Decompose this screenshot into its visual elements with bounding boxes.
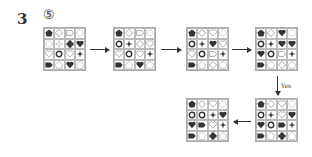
diamond-icon (136, 40, 144, 48)
heart-icon (45, 50, 53, 58)
pentagon-icon (198, 61, 206, 69)
cross-icon (55, 40, 63, 48)
grid-cell (208, 49, 218, 60)
grid-cell (114, 60, 124, 71)
pentagon-icon (267, 132, 275, 140)
heart-icon (278, 100, 286, 108)
grid-cell (266, 60, 276, 71)
grid-cell (287, 39, 297, 50)
heart-icon (278, 111, 286, 119)
grid-cell (256, 28, 266, 39)
grid-cell (197, 60, 207, 71)
grid-cell (277, 28, 287, 39)
grid-cell (65, 39, 75, 50)
ring-icon (257, 111, 265, 119)
flower-icon (288, 100, 296, 108)
grid-cell (187, 39, 197, 50)
tag-icon (257, 61, 265, 69)
question-number: 3 (17, 10, 27, 28)
grid-cell (266, 110, 276, 121)
ring-icon (257, 40, 265, 48)
pentagon-icon (198, 132, 206, 140)
grid-cell (75, 60, 85, 71)
heart-icon (278, 29, 286, 37)
flower-icon (76, 29, 84, 37)
heart-icon (209, 29, 217, 37)
grid-cell (266, 131, 276, 142)
tag-icon (278, 50, 286, 58)
pentagon-icon (219, 132, 227, 140)
grid-cell (277, 120, 287, 131)
grid-cell (197, 110, 207, 121)
grid-cell (287, 60, 297, 71)
grid-cell (218, 60, 228, 71)
diamond-icon (198, 29, 206, 37)
grid-cell (197, 99, 207, 110)
grid-3 (186, 27, 229, 71)
grid-cell (208, 28, 218, 39)
heart-icon (136, 50, 144, 58)
grid-cell (75, 49, 85, 60)
grid-cell (277, 60, 287, 71)
grid-cell (218, 110, 228, 121)
flower-icon (146, 29, 154, 37)
ring-icon (198, 111, 206, 119)
grid-cell (145, 49, 155, 60)
grid-cell (266, 99, 276, 110)
cross-icon (267, 40, 275, 48)
arrow-left (234, 121, 251, 122)
grid-cell (54, 39, 64, 50)
flower-icon (288, 29, 296, 37)
ring-icon (198, 50, 206, 58)
heart-icon (288, 111, 296, 119)
grid-cell (44, 39, 54, 50)
grid-cell (218, 39, 228, 50)
grid-cell (114, 49, 124, 60)
diamond-icon (278, 61, 286, 69)
grid-cell (208, 60, 218, 71)
grid-cell (114, 39, 124, 50)
cross-icon (125, 40, 133, 48)
heart-icon (219, 40, 227, 48)
grid-cell (287, 120, 297, 131)
heart-icon (115, 50, 123, 58)
heart-icon (209, 121, 217, 129)
pentagon-icon (146, 61, 154, 69)
heart-icon (188, 50, 196, 58)
grid-cell (266, 120, 276, 131)
grid-cell (135, 39, 145, 50)
grid-cell (187, 99, 197, 110)
grid-cell (208, 131, 218, 142)
grid-cell (218, 131, 228, 142)
grid-cell (65, 49, 75, 60)
ring-icon (267, 121, 275, 129)
grid-cell (208, 39, 218, 50)
pentagon-icon (288, 132, 296, 140)
heart-icon (136, 61, 144, 69)
star4-icon (76, 50, 84, 58)
grid-cell (197, 49, 207, 60)
arrow-right-3 (232, 49, 251, 50)
pentagon-icon (45, 29, 53, 37)
pentagon-icon (115, 29, 123, 37)
diamond-icon (267, 29, 275, 37)
diamond-icon (198, 100, 206, 108)
heart-icon (146, 40, 154, 48)
yes-label: Yes (281, 82, 291, 89)
cross-icon (198, 40, 206, 48)
grid-cell (208, 110, 218, 121)
heart-icon (257, 50, 265, 58)
grid-cell (44, 60, 54, 71)
grid-cell (187, 131, 197, 142)
star4-icon (288, 121, 296, 129)
grid-4 (255, 27, 298, 71)
grid-cell (124, 28, 134, 39)
heart-icon (278, 40, 286, 48)
grid-cell (197, 39, 207, 50)
grid-cell (54, 28, 64, 39)
ring-icon (188, 40, 196, 48)
grid-cell (54, 49, 64, 60)
grid-cell (256, 131, 266, 142)
grid-cell (197, 120, 207, 131)
grid-cell (44, 49, 54, 60)
